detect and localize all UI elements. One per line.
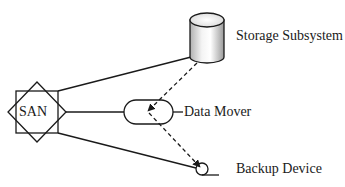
storage-cylinder-icon (190, 13, 224, 63)
backup-device-label: Backup Device (236, 162, 322, 176)
edge-san-storage (58, 56, 195, 91)
edge-san-backup (58, 133, 196, 168)
san-label: SAN (19, 105, 47, 119)
data-mover-icon (124, 100, 173, 124)
backup-device-icon (196, 163, 219, 175)
storage-subsystem-label: Storage Subsystem (236, 29, 343, 43)
data-mover-label: Data Mover (184, 105, 251, 119)
